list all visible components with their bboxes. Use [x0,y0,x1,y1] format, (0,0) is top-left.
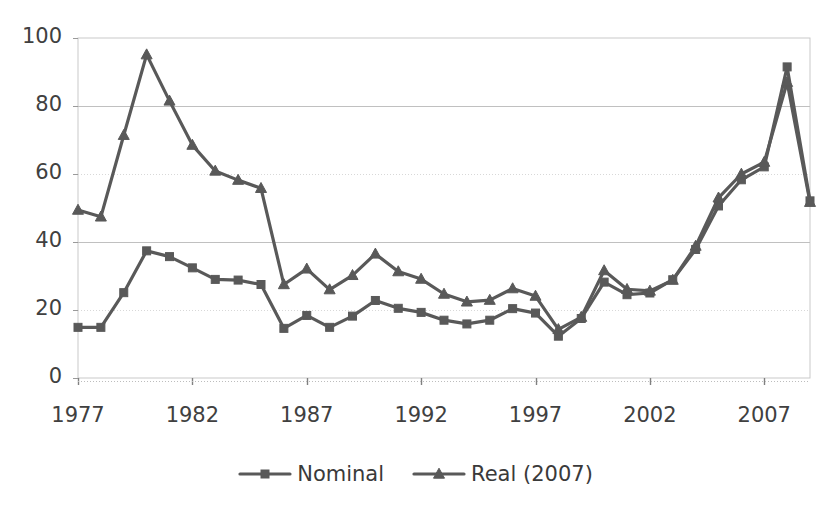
data-point [417,308,425,316]
chart-legend: NominalReal (2007) [0,462,831,486]
ytick-label-20: 20 [0,296,62,320]
data-point [486,316,494,324]
data-point [440,316,448,324]
xtick-label-1982: 1982 [142,403,242,427]
ytick-label-60: 60 [0,160,62,184]
data-point [507,283,518,293]
data-point [73,204,84,214]
data-point [394,304,402,312]
data-point [234,276,242,284]
ytick-label-40: 40 [0,228,62,252]
data-point [783,63,791,71]
data-point [97,323,105,331]
xtick-label-1987: 1987 [257,403,357,427]
xtick-label-1997: 1997 [486,403,586,427]
legend-label: Nominal [297,462,384,486]
line-chart: NominalReal (2007) 020406080100197719821… [0,0,831,516]
legend-label: Real (2007) [471,462,593,486]
data-point [143,247,151,255]
ytick-label-100: 100 [0,24,62,48]
data-point [141,49,152,59]
data-point [759,156,770,166]
data-point [371,296,379,304]
data-point [120,289,128,297]
data-point [166,253,174,261]
data-point [349,312,357,320]
xtick-label-2002: 2002 [600,403,700,427]
xtick-label-1992: 1992 [371,403,471,427]
series-real-2007 [73,49,816,334]
data-point [188,264,196,272]
data-point [303,311,311,319]
data-point [280,324,288,332]
ytick-label-0: 0 [0,364,62,388]
data-point [463,320,471,328]
data-point [301,263,312,273]
data-point [211,275,219,283]
data-point [532,309,540,317]
data-point [509,305,517,313]
legend-entry-real-2007[interactable]: Real (2007) [412,462,593,486]
xtick-label-2007: 2007 [714,403,814,427]
triangle-marker-icon [412,463,466,485]
data-point [326,323,334,331]
square-marker-icon [238,463,292,485]
legend-entry-nominal[interactable]: Nominal [238,462,384,486]
plot-frame [78,38,810,378]
data-point [74,323,82,331]
data-point [370,248,381,258]
data-point [118,129,129,139]
data-point [599,265,610,275]
xtick-label-1977: 1977 [28,403,128,427]
data-point [257,281,265,289]
ytick-label-80: 80 [0,92,62,116]
plot-area [0,0,831,516]
